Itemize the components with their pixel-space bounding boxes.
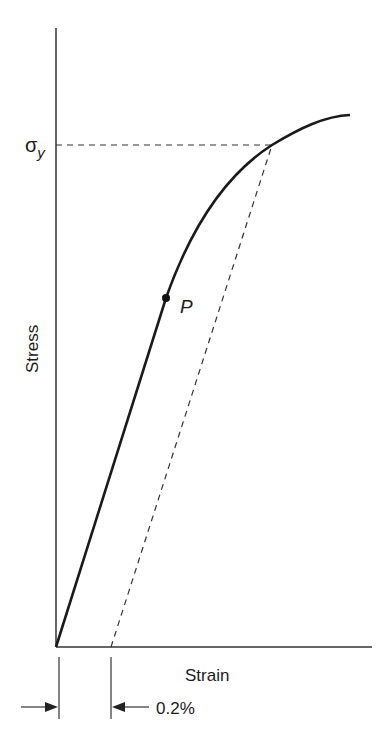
point-p-label: P [180, 296, 193, 317]
right-arrow-head-icon [112, 702, 125, 712]
proportional-limit-point [162, 294, 170, 302]
x-axis-label: Strain [185, 666, 229, 685]
offset-label: 0.2% [156, 699, 195, 718]
stress-strain-diagram: σy P Stress Strain 0.2% [0, 0, 389, 745]
y-axis-label: Stress [23, 325, 42, 373]
left-arrow-head-icon [45, 702, 58, 712]
yield-stress-label: σy [25, 134, 46, 161]
stress-strain-curve [56, 115, 350, 647]
